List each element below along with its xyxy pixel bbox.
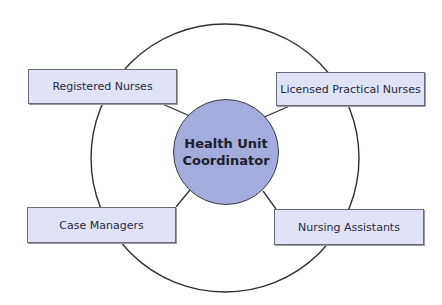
node-nursing-assistants: Nursing Assistants: [274, 209, 424, 245]
center-label-line1: Health Unit: [182, 135, 269, 152]
connector-top-right: [262, 105, 292, 118]
node-label: Licensed Practical Nurses: [280, 83, 420, 96]
node-label: Nursing Assistants: [298, 221, 400, 234]
node-licensed-practical-nurses: Licensed Practical Nurses: [276, 72, 425, 106]
node-registered-nurses: Registered Nurses: [28, 69, 177, 104]
node-label: Case Managers: [59, 219, 143, 232]
connector-bottom-left: [176, 190, 190, 207]
node-label: Registered Nurses: [52, 80, 152, 93]
center-node-health-unit-coordinator: Health Unit Coordinator: [173, 99, 279, 205]
center-label-line2: Coordinator: [182, 152, 269, 169]
node-case-managers: Case Managers: [27, 207, 176, 243]
connector-bottom-right: [263, 191, 276, 209]
connector-top-left: [160, 103, 190, 116]
